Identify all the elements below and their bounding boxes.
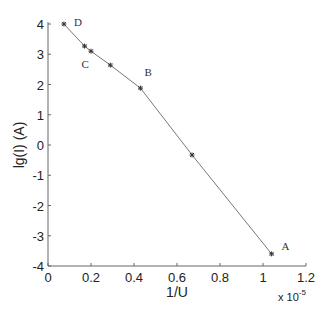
star-marker-icon [138, 86, 143, 91]
y-tick-label: 1 [37, 108, 44, 123]
data-series [61, 22, 274, 257]
y-tick-label: -4 [32, 259, 44, 274]
x-axis-label: 1/U [166, 284, 188, 300]
series-line [64, 24, 272, 254]
x-tick-label: 0.2 [82, 270, 100, 285]
x-tick-label: 0.4 [125, 270, 143, 285]
x-tick-label: 1.2 [297, 270, 315, 285]
y-axis-label: lg(I) (A) [11, 122, 27, 169]
x-tick-label: 0 [44, 270, 51, 285]
y-tick-label: 4 [37, 17, 44, 32]
y-tick-label: -3 [32, 229, 44, 244]
y-tick-label: 0 [37, 138, 44, 153]
y-tick-label: -1 [32, 168, 44, 183]
axes: 00.20.40.60.811.243210-1-2-3-4 [32, 17, 315, 285]
point-label-a: A [282, 240, 290, 252]
point-label-d: D [74, 16, 82, 28]
point-label-b: B [144, 66, 151, 78]
x-multiplier-label: x 10-5 [278, 288, 306, 303]
x-tick-label: 1 [259, 270, 266, 285]
y-tick-label: 2 [37, 78, 44, 93]
star-marker-icon [269, 251, 274, 256]
star-marker-icon [89, 49, 94, 54]
star-marker-icon [82, 44, 87, 49]
y-tick-label: -2 [32, 199, 44, 214]
star-marker-icon [61, 22, 66, 27]
star-marker-icon [108, 63, 113, 68]
point-annotations: DCBA [74, 16, 290, 252]
star-marker-icon [190, 152, 195, 157]
point-label-c: C [82, 58, 89, 70]
x-tick-label: 0.8 [211, 270, 229, 285]
chart: 00.20.40.60.811.243210-1-2-3-4 DCBA 1/U … [0, 0, 329, 326]
x-tick-label: 0.6 [168, 270, 186, 285]
y-tick-label: 3 [37, 47, 44, 62]
